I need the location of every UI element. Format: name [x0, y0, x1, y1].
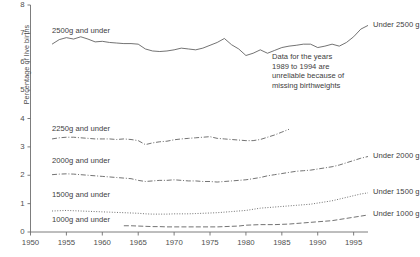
annotation-line-1: Data for the years: [272, 52, 344, 62]
x-tick-label: 1950: [16, 238, 46, 247]
x-tick-label: 1975: [195, 238, 225, 247]
annotation-line-3: unreliable because of: [272, 71, 344, 81]
series-right-label: Under 1000 g: [373, 209, 420, 218]
x-tick-label: 1995: [339, 238, 369, 247]
y-tick-label: 3: [11, 142, 25, 151]
series-inline-label: 1500g and under: [52, 190, 110, 199]
x-tick-label: 1955: [51, 238, 81, 247]
y-tick-label: 5: [11, 85, 25, 94]
series-line-5: [124, 215, 368, 227]
y-tick-label: 4: [11, 114, 25, 123]
x-tick-label: 1985: [267, 238, 297, 247]
annotation-line-4: missing birthweights: [272, 81, 344, 91]
y-tick-label: 1: [11, 199, 25, 208]
series-right-label: Under 2000 g: [373, 151, 420, 160]
series-right-label: Under 1500 g: [373, 187, 420, 196]
y-tick-label: 2: [11, 170, 25, 179]
y-tick-label: 0: [11, 227, 25, 236]
y-tick-label: 6: [11, 57, 25, 66]
x-tick-label: 1980: [231, 238, 261, 247]
series-inline-label: 2000g and under: [52, 156, 110, 165]
y-tick-label: 7: [11, 28, 25, 37]
unreliable-data-annotation: Data for the years 1989 to 1994 are unre…: [272, 52, 344, 90]
x-tick-label: 1990: [303, 238, 333, 247]
x-tick-label: 1965: [123, 238, 153, 247]
x-tick-label: 1960: [87, 238, 117, 247]
x-tick-label: 1970: [159, 238, 189, 247]
series-inline-label: 2500g and under: [52, 26, 110, 35]
annotation-line-2: 1989 to 1994 are: [272, 62, 344, 72]
series-inline-label: 1000g and under: [52, 215, 110, 224]
series-inline-label: 2250g and under: [52, 124, 110, 133]
y-tick-label: 8: [11, 0, 25, 9]
series-right-label: Under 2500 g: [373, 20, 420, 29]
